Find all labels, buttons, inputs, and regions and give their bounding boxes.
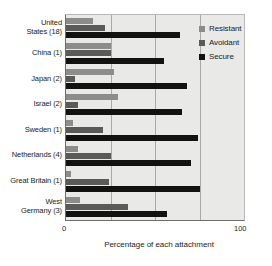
category-label: UnitedStates (18)	[0, 18, 62, 36]
bar-avoidant	[66, 204, 128, 210]
category-label: Japan (2)	[0, 74, 62, 83]
category-label: Sweden (1)	[0, 125, 62, 134]
category-label-line: United	[0, 18, 62, 27]
bar-group	[66, 94, 244, 114]
legend-swatch-icon	[199, 26, 205, 32]
x-axis-tick-100: 100	[234, 224, 247, 233]
category-label: China (1)	[0, 48, 62, 57]
category-label: Netherlands (4)	[0, 150, 62, 159]
category-label-line: Japan (2)	[0, 74, 62, 83]
bar-avoidant	[66, 50, 111, 56]
category-label-line: China (1)	[0, 48, 62, 57]
chart-legend: ResistantAvoidantSecure	[199, 22, 269, 64]
category-label-line: Sweden (1)	[0, 125, 62, 134]
bar-secure	[66, 109, 182, 115]
category-label: Great Britain (1)	[0, 176, 62, 185]
bar-resistant	[66, 69, 114, 75]
x-axis-title-text: Percentage of each attachment	[104, 240, 214, 249]
legend-swatch-icon	[199, 54, 205, 60]
bar-resistant	[66, 120, 73, 126]
category-label-line: States (18)	[0, 27, 62, 36]
bar-resistant	[66, 197, 80, 203]
x-axis-title: Percentage of each attachment	[0, 240, 272, 249]
legend-item-resistant[interactable]: Resistant	[199, 22, 269, 35]
bar-secure	[66, 211, 167, 217]
bar-group	[66, 69, 244, 89]
bar-resistant	[66, 171, 71, 177]
bar-group	[66, 120, 244, 140]
legend-swatch-icon	[199, 40, 205, 46]
legend-label: Secure	[209, 52, 234, 61]
bar-secure	[66, 58, 164, 64]
bar-secure	[66, 83, 187, 89]
bar-avoidant	[66, 25, 105, 31]
bar-secure	[66, 135, 198, 141]
attachment-bar-chart: UnitedStates (18)China (1)Japan (2)Israe…	[0, 0, 272, 266]
bar-avoidant	[66, 76, 75, 82]
bar-avoidant	[66, 127, 103, 133]
category-label-line: West	[0, 197, 62, 206]
bar-group	[66, 171, 244, 191]
category-label-line: Netherlands (4)	[0, 150, 62, 159]
category-label-line: Germany (3)	[0, 206, 62, 215]
legend-label: Resistant	[209, 24, 241, 33]
bar-resistant	[66, 18, 93, 24]
bar-secure	[66, 160, 191, 166]
bar-resistant	[66, 146, 78, 152]
legend-label: Avoidant	[209, 38, 239, 47]
bar-avoidant	[66, 102, 78, 108]
category-label-line: Great Britain (1)	[0, 176, 62, 185]
bar-group	[66, 197, 244, 217]
bar-group	[66, 146, 244, 166]
legend-item-avoidant[interactable]: Avoidant	[199, 36, 269, 49]
category-label-line: Israel (2)	[0, 99, 62, 108]
legend-item-secure[interactable]: Secure	[199, 50, 269, 63]
category-label: Israel (2)	[0, 99, 62, 108]
category-axis-labels: UnitedStates (18)China (1)Japan (2)Israe…	[0, 14, 62, 219]
bar-avoidant	[66, 179, 109, 185]
x-axis-tick-0: 0	[62, 224, 66, 233]
category-label: WestGermany (3)	[0, 197, 62, 215]
bar-avoidant	[66, 153, 111, 159]
bar-resistant	[66, 94, 118, 100]
bar-secure	[66, 186, 200, 192]
bar-secure	[66, 32, 180, 38]
bar-resistant	[66, 43, 111, 49]
